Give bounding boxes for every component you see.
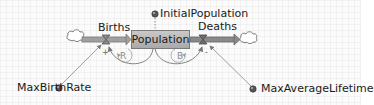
- reinforcing-loop-label: R: [120, 50, 126, 62]
- population-stock-label: Population: [132, 33, 190, 46]
- births-label: Births: [98, 22, 130, 34]
- max-average-lifetime-link: [210, 46, 253, 88]
- balancing-loop-label: B: [177, 50, 183, 62]
- sink-cloud-icon: [240, 32, 257, 44]
- births-polarity-sign: +: [102, 47, 109, 59]
- reinforcing-link: [109, 47, 153, 64]
- deaths-label: Deaths: [198, 21, 237, 33]
- source-cloud-icon: [67, 30, 84, 42]
- population-stock[interactable]: Population: [131, 30, 190, 49]
- max-average-lifetime-label: MaxAverageLifetime: [261, 83, 374, 95]
- initial-population-icon[interactable]: [152, 11, 158, 17]
- initial-population-label: InitialPopulation: [160, 8, 248, 20]
- max-birth-rate-label: MaxBirthRate: [17, 82, 91, 94]
- max-average-lifetime-icon[interactable]: [250, 86, 256, 92]
- deaths-polarity-sign: -: [205, 47, 208, 59]
- deaths-flow-pipe: [190, 34, 240, 45]
